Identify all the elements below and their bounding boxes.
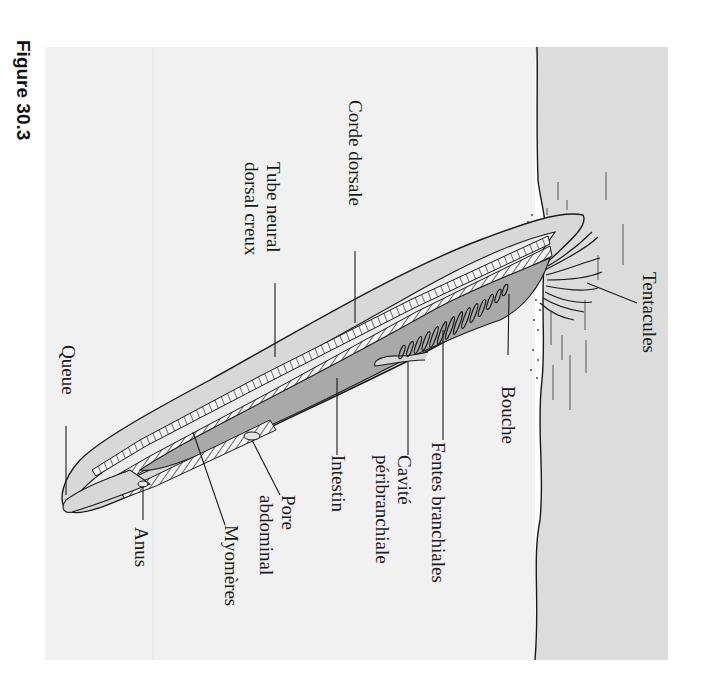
label-corde-dorsale: Corde dorsale [345, 100, 366, 206]
atriopore [244, 432, 260, 440]
label-pore: Pore [278, 495, 299, 530]
label-tentacules: Tentacules [639, 272, 660, 353]
label-anus: Anus [131, 527, 152, 567]
figure-panel: Figure 30.3 [0, 0, 707, 693]
label-cavite: Cavité [394, 455, 415, 505]
lancelet-diagram: Tentacules Bouche Fentes branchiales Cav… [0, 0, 707, 693]
label-intestin: Intestin [328, 455, 349, 512]
label-bouche: Bouche [498, 386, 519, 444]
sediment-region [535, 47, 668, 660]
label-tube-neural: Tube neural [263, 162, 284, 253]
figure-caption-label: Figure 30.3 [12, 40, 34, 140]
label-tube-neural-2: dorsal creux [241, 162, 262, 256]
label-myomeres: Myomères [221, 525, 242, 606]
label-cavite-2: péribranchiale [372, 455, 393, 564]
label-fentes-branchiales: Fentes branchiales [428, 442, 449, 583]
label-queue: Queue [58, 345, 79, 395]
label-pore-2: abdominal [256, 495, 277, 575]
